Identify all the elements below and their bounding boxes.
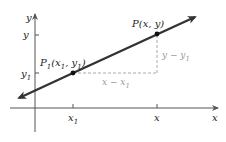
- rise-label: y − y1: [161, 50, 190, 63]
- x-tick-label-x1: x1: [68, 112, 78, 126]
- y-axis-label: y: [25, 12, 32, 23]
- point-p-label: P(x, y): [131, 18, 164, 29]
- y-tick-label-y: y: [22, 29, 29, 40]
- point-p1: [71, 71, 76, 76]
- point-p1-label: P1(x1, y1): [39, 57, 86, 71]
- point-p: [155, 32, 160, 37]
- run-label: x − x1: [102, 77, 130, 90]
- x-axis-label: x: [212, 112, 218, 123]
- y-tick-label-y1: y1: [20, 68, 31, 82]
- diagram-canvas: y x y y1 x1 x P1(x1, y1) P(x, y) x − x1 …: [0, 0, 226, 142]
- x-tick-label-x: x: [154, 112, 160, 123]
